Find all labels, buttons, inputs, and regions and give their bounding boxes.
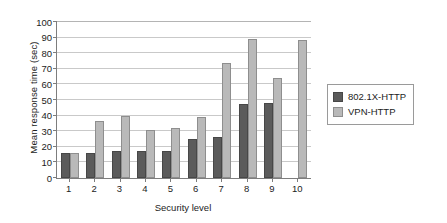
legend-label: VPN-HTTP bbox=[348, 106, 396, 117]
y-tick-label: 70 bbox=[41, 64, 52, 74]
legend-label: 802.1X-HTTP bbox=[348, 91, 406, 102]
bar bbox=[112, 151, 121, 178]
y-tick-label: 100 bbox=[36, 17, 52, 27]
x-axis-ticks: 12345678910 bbox=[56, 178, 310, 200]
x-tick-label: 6 bbox=[183, 184, 208, 194]
bar bbox=[61, 153, 70, 178]
bar bbox=[197, 117, 206, 178]
x-tick: 3 bbox=[107, 178, 132, 200]
x-tick-mark bbox=[196, 178, 197, 182]
x-tick: 6 bbox=[183, 178, 208, 200]
x-tick-label: 8 bbox=[234, 184, 259, 194]
x-tick-label: 9 bbox=[259, 184, 284, 194]
y-tick-label: 90 bbox=[41, 33, 52, 43]
bar-group bbox=[184, 22, 209, 178]
bar bbox=[95, 121, 104, 178]
x-tick-mark bbox=[69, 178, 70, 182]
bar bbox=[146, 130, 155, 178]
bar-group bbox=[108, 22, 133, 178]
bar-group bbox=[57, 22, 82, 178]
y-tick-label: 10 bbox=[41, 158, 52, 168]
y-tick-label: 30 bbox=[41, 126, 52, 136]
bar bbox=[213, 137, 222, 178]
legend-item: VPN-HTTP bbox=[333, 104, 406, 119]
y-tick-label: 40 bbox=[41, 111, 52, 121]
legend-swatch bbox=[333, 107, 343, 117]
bar bbox=[137, 151, 146, 178]
x-tick-mark bbox=[94, 178, 95, 182]
x-tick-mark bbox=[272, 178, 273, 182]
bar bbox=[239, 104, 248, 178]
x-tick-label: 7 bbox=[208, 184, 233, 194]
y-tick-label: 60 bbox=[41, 80, 52, 90]
bar bbox=[222, 63, 231, 178]
x-tick-label: 2 bbox=[81, 184, 106, 194]
bar-groups bbox=[57, 22, 311, 178]
bar bbox=[171, 128, 180, 178]
bar-group bbox=[133, 22, 158, 178]
bar-group bbox=[260, 22, 285, 178]
x-tick: 10 bbox=[285, 178, 310, 200]
bar bbox=[264, 103, 273, 178]
bar bbox=[70, 153, 79, 178]
x-tick-mark bbox=[297, 178, 298, 182]
x-tick-label: 10 bbox=[285, 184, 310, 194]
bar bbox=[86, 153, 95, 178]
x-tick-label: 4 bbox=[132, 184, 157, 194]
x-tick-mark bbox=[145, 178, 146, 182]
legend-item: 802.1X-HTTP bbox=[333, 89, 406, 104]
bar bbox=[188, 139, 197, 178]
y-tick-label: 20 bbox=[41, 142, 52, 152]
x-tick: 2 bbox=[81, 178, 106, 200]
x-tick: 8 bbox=[234, 178, 259, 200]
x-tick: 1 bbox=[56, 178, 81, 200]
bar bbox=[298, 40, 307, 178]
chart-figure: Mean response time (sec) 010203040506070… bbox=[0, 0, 447, 223]
x-tick-mark bbox=[120, 178, 121, 182]
x-tick-label: 1 bbox=[56, 184, 81, 194]
bar bbox=[273, 78, 282, 178]
bar-group bbox=[286, 22, 311, 178]
x-tick: 4 bbox=[132, 178, 157, 200]
x-axis-title: Security level bbox=[56, 202, 310, 213]
y-tick-label: 0 bbox=[47, 173, 52, 183]
x-tick: 7 bbox=[208, 178, 233, 200]
bar-group bbox=[235, 22, 260, 178]
y-tick-label: 50 bbox=[41, 95, 52, 105]
x-tick: 9 bbox=[259, 178, 284, 200]
bar bbox=[121, 116, 130, 178]
bar-group bbox=[159, 22, 184, 178]
y-tick-label: 80 bbox=[41, 48, 52, 58]
bar-group bbox=[82, 22, 107, 178]
plot-area: 0102030405060708090100 bbox=[56, 22, 311, 179]
y-axis-title: Mean response time (sec) bbox=[28, 18, 39, 178]
bar bbox=[248, 39, 257, 178]
x-tick-mark bbox=[221, 178, 222, 182]
x-tick: 5 bbox=[158, 178, 183, 200]
legend-swatch bbox=[333, 92, 343, 102]
bar bbox=[162, 151, 171, 178]
x-tick-label: 5 bbox=[158, 184, 183, 194]
x-tick-mark bbox=[170, 178, 171, 182]
x-tick-mark bbox=[247, 178, 248, 182]
chart-legend: 802.1X-HTTPVPN-HTTP bbox=[327, 84, 414, 125]
bar-group bbox=[209, 22, 234, 178]
x-tick-label: 3 bbox=[107, 184, 132, 194]
